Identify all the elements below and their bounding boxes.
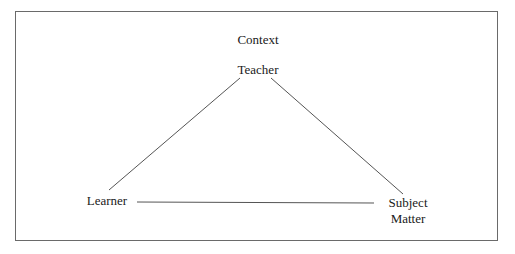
node-subject-matter: Subject Matter xyxy=(383,195,433,227)
edge-teacher-learner xyxy=(109,78,240,190)
context-label: Context xyxy=(226,32,290,48)
node-learner: Learner xyxy=(80,193,134,209)
node-teacher: Teacher xyxy=(226,62,290,78)
edge-learner-subject xyxy=(137,202,374,203)
edge-teacher-subject xyxy=(271,78,403,194)
node-subject-line1: Subject xyxy=(383,195,433,211)
node-subject-line2: Matter xyxy=(383,211,433,227)
